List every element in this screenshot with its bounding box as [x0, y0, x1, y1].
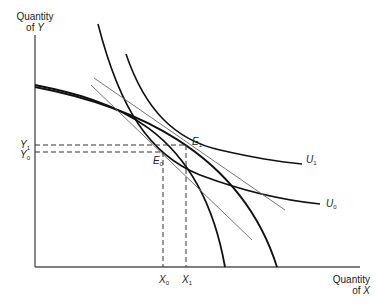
x-axis-label-line2: of X: [326, 285, 370, 296]
y-axis-label: Quantity of Y: [10, 11, 60, 33]
y-axis-label-line1: Quantity: [10, 11, 60, 22]
curve-u0-sub: 0: [333, 204, 336, 210]
x-axis-of: of: [352, 285, 360, 296]
y-axis-of: of: [26, 22, 34, 33]
tick-x0-sub: 0: [166, 280, 169, 286]
tick-y0-letter: Y: [20, 149, 27, 160]
point-e0: E0: [153, 155, 163, 170]
x-axis-label: Quantity of X: [326, 274, 370, 296]
tick-x0: X0: [159, 274, 169, 289]
curve-u1-sub: 1: [313, 160, 316, 166]
indifference-curve-u1: [126, 54, 302, 164]
tick-x1-sub: 1: [189, 280, 192, 286]
curve-u0-label: U0: [326, 198, 337, 213]
point-e0-sub: 0: [160, 161, 163, 167]
point-e1-sub: 1: [199, 142, 202, 148]
tick-y0: Y0: [20, 149, 30, 164]
tangent-line-e1: [94, 78, 285, 210]
tick-x0-letter: X: [159, 274, 166, 285]
tick-x1: X1: [182, 274, 192, 289]
x-axis-var: X: [363, 285, 370, 296]
tick-y0-sub: 0: [27, 155, 30, 161]
diagram-canvas: [0, 0, 380, 307]
point-e1-letter: E: [192, 136, 199, 147]
point-e0-letter: E: [153, 155, 160, 166]
y-axis-label-line2: of Y: [10, 22, 60, 33]
y-axis-var: Y: [37, 22, 44, 33]
tick-x1-letter: X: [182, 274, 189, 285]
x-axis-label-line1: Quantity: [326, 274, 370, 285]
point-e1: E1: [192, 136, 202, 151]
ppf-curve-inner: [35, 85, 225, 267]
tangent-line-e0: [91, 85, 252, 240]
ppf-curve-outer: [35, 87, 277, 267]
indifference-curve-u0: [98, 24, 320, 204]
curve-u1-label: U1: [306, 154, 317, 169]
